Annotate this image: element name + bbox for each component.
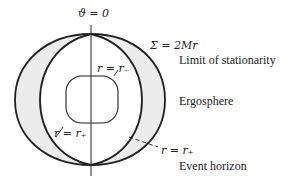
inner-horizon-label: r = r₋ <box>97 63 130 74</box>
outer-surface-caption: Limit of stationarity <box>179 54 276 66</box>
axis-label: ϑ = 0 <box>78 8 109 19</box>
region-label: Ergosphere <box>179 95 233 107</box>
outer-horizon-caption: Event horizon <box>179 160 247 172</box>
kerr-black-hole-diagram <box>0 0 298 182</box>
inner-horizon-curve <box>66 76 118 123</box>
outer-surface-label: Σ = 2Mr <box>150 40 198 51</box>
outer-horizon-label-right: r = r₊ <box>161 145 194 156</box>
outer-horizon-label-left: r = r₊ <box>54 128 87 139</box>
